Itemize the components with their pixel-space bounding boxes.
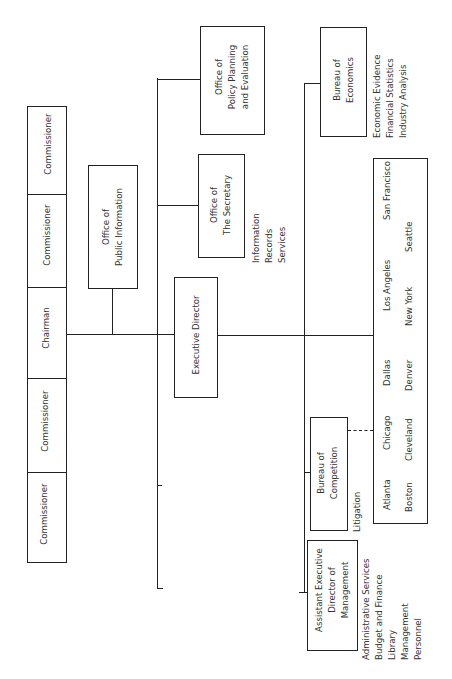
regional-office-los-angeles: Los Angeles <box>381 260 394 311</box>
staff-tick <box>157 485 162 486</box>
regional-office-seattle: Seattle <box>403 222 416 252</box>
secretary-branch <box>157 205 199 206</box>
regional-office-dallas: Dallas <box>381 360 394 386</box>
bureau-economics-functions: Economic Evidence Financial Statistics I… <box>371 55 410 138</box>
bureau-economics-label: Bureau of Economics <box>331 35 357 125</box>
regional-office-chicago: Chicago <box>381 415 394 450</box>
chairman-label: Chairman <box>40 288 53 368</box>
competition-regional-dashed-link <box>348 430 373 431</box>
staff-tick <box>157 588 163 589</box>
office-secretary-label: Office of The Secretary <box>208 165 234 245</box>
bureaus-vertical-line <box>304 83 305 593</box>
staff-vertical-line <box>157 78 158 589</box>
office-public-information-label: Office of Public Information <box>100 172 126 282</box>
commissioner-1-label: Commissioner <box>42 106 55 182</box>
economics-branch <box>304 83 321 84</box>
regional-office-san-francisco: San Francisco <box>381 161 394 220</box>
assistant-executive-director-functions: Administrative Services Budget and Finan… <box>360 558 425 660</box>
assistant-executive-director-label: Assistant Executive Director of Manageme… <box>313 540 352 640</box>
regional-office-boston: Boston <box>403 482 416 512</box>
regional-office-new-york: New York <box>403 287 416 326</box>
office-secretary-functions: Information Records Services <box>250 213 289 263</box>
public-info-stem <box>112 288 113 335</box>
regional-office-denver: Denver <box>403 360 416 391</box>
bureau-competition-functions: Litigation <box>351 492 364 532</box>
policy-planning-branch <box>157 79 202 80</box>
office-policy-planning-label: Office of Policy Planning and Evaluation <box>213 32 252 122</box>
bureau-competition-label: Bureau of Competition <box>315 428 341 518</box>
commissioner-3-label: Commissioner <box>39 380 52 462</box>
commissioner-2-label: Commissioner <box>41 195 54 275</box>
regional-office-cleveland: Cleveland <box>403 418 416 461</box>
commissioner-4-label: Commissioner <box>38 473 51 555</box>
executive-director-label: Executive Director <box>190 285 203 385</box>
regional-office-atlanta: Atlanta <box>381 479 394 510</box>
